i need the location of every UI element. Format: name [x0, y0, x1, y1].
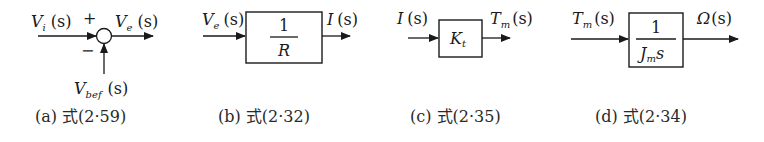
caption-a: (a) 式(2·59) — [35, 107, 126, 126]
block-numerator: 1 — [279, 16, 289, 35]
label-tm-in: Tm(s) — [572, 9, 615, 30]
label-tm-out: Tm(s) — [490, 9, 533, 30]
label-ve-in: Ve(s) — [202, 10, 244, 31]
caption-b: (b) 式(2·32) — [218, 107, 310, 126]
plus-sign: + — [83, 9, 96, 28]
label-ve-out: Ve(s) — [115, 12, 158, 33]
diagram-d-inertia-block: Tm(s) 1 Jms Ω(s) (d) 式(2·34) — [571, 9, 738, 126]
caption-c: (c) 式(2·35) — [410, 107, 501, 126]
label-vbef: Vbef(s) — [74, 79, 128, 100]
block-denominator: R — [277, 41, 290, 60]
label-omega-out: Ω(s) — [696, 9, 732, 28]
diagram-b-resistance-block: Ve(s) 1 R I(s) (b) 式(2·32) — [202, 10, 358, 126]
caption-d: (d) 式(2·34) — [595, 107, 687, 126]
block-diagram-canvas: Vi(s) + Ve(s) − Vbef(s) (a) 式(2·59) Ve(s… — [0, 0, 764, 142]
diagram-a-summing-junction: Vi(s) + Ve(s) − Vbef(s) (a) 式(2·59) — [31, 9, 158, 126]
summing-junction-circle — [97, 29, 112, 44]
minus-sign: − — [81, 41, 94, 60]
label-i-out: I(s) — [326, 10, 358, 29]
diagram-c-torque-constant-block: I(s) Kt Tm(s) (c) 式(2·35) — [396, 9, 533, 126]
block-numerator: 1 — [651, 18, 661, 37]
label-vi: Vi(s) — [31, 12, 71, 33]
label-i-in: I(s) — [396, 9, 428, 28]
